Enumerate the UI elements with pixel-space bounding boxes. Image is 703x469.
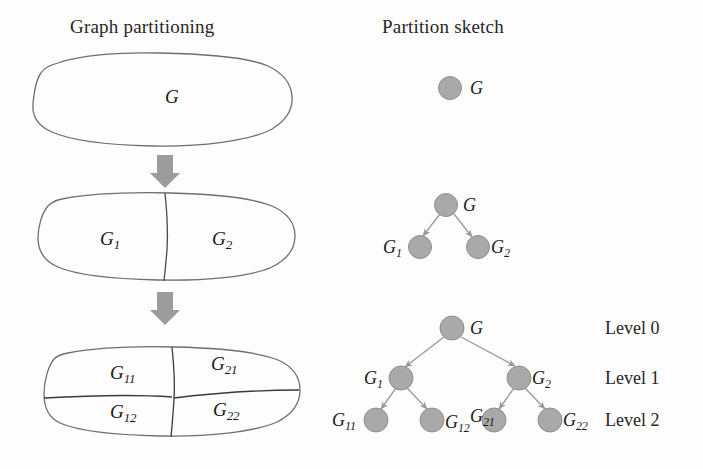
blob-label-G22: G22: [213, 399, 239, 424]
node-label-stage2-G22: G22: [563, 410, 588, 434]
blob-label-G12-base: G: [110, 401, 124, 422]
node-label-stage1-G1-base: G: [383, 237, 396, 257]
node-label-stage2-G22-sub: 22: [576, 419, 588, 433]
level-label-2: Level 2: [605, 410, 659, 431]
down-arrow-2: [150, 292, 180, 325]
level-label-1: Level 1: [605, 368, 659, 389]
blob-label-G12-sub: 12: [124, 410, 137, 425]
node-label-stage2-G2-sub: 2: [545, 377, 551, 391]
node-label-stage2-G1: G1: [364, 368, 383, 392]
blob-bisected: [38, 193, 295, 281]
blob-label-G: G: [165, 86, 179, 108]
node-label-stage2-G: G: [470, 318, 483, 339]
node-label-stage1-G2-sub: 2: [504, 246, 510, 260]
node-label-stage1-G1: G1: [383, 237, 402, 261]
node-label-stage2-G12-sub: 12: [458, 421, 470, 435]
blob-label-G11-sub: 11: [124, 371, 136, 386]
node-label-stage2-G12: G12: [445, 412, 470, 436]
blob-label-G1-base: G: [100, 228, 114, 249]
node-label-stage2-G11: G11: [332, 410, 356, 434]
sketch-tree-stage-0: [439, 77, 462, 100]
blob-label-G1-sub: 1: [114, 237, 120, 252]
down-arrow-1: [150, 155, 180, 188]
node-label-stage2-G21-sub: 21: [483, 415, 495, 429]
blob-label-G1: G1: [100, 228, 120, 253]
blob-label-G21-sub: 21: [225, 362, 238, 377]
node-label-stage1-G2-base: G: [491, 237, 504, 257]
node-label-stage2-G11-sub: 11: [345, 419, 356, 433]
node-label-stage2-G1-base: G: [364, 368, 377, 388]
blob-label-G21: G21: [211, 353, 237, 378]
blob-label-G22-base: G: [213, 399, 227, 420]
node-label-stage2-G2-base: G: [532, 368, 545, 388]
node-label-stage1-G-base: G: [463, 195, 476, 215]
node-label-stage2-G21-base: G: [470, 406, 483, 426]
node-label-stage1-G: G: [463, 195, 476, 216]
blob-label-G11: G11: [110, 362, 135, 387]
node-label-stage1-G1-sub: 1: [396, 246, 402, 260]
blob-label-G12: G12: [110, 401, 136, 426]
blob-label-G22-sub: 22: [227, 408, 240, 423]
node-label-stage0-G-base: G: [470, 78, 483, 98]
blob-label-G11-base: G: [110, 362, 124, 383]
level-label-0: Level 0: [605, 318, 659, 339]
node-label-stage2-G12-base: G: [445, 412, 458, 432]
blob-label-G2-base: G: [212, 228, 226, 249]
blob-whole-graph: [33, 53, 292, 146]
blob-quadrisected: [44, 347, 300, 437]
node-label-stage2-G21: G21: [470, 406, 495, 430]
figure-canvas: Graph partitioning Partition sketch: [0, 0, 703, 469]
blob-label-G-base: G: [165, 86, 179, 107]
node-label-stage2-G-base: G: [470, 318, 483, 338]
blob-label-G21-base: G: [211, 353, 225, 374]
node-label-stage2-G2: G2: [532, 368, 551, 392]
blob-label-G2: G2: [212, 228, 232, 253]
node-label-stage1-G2: G2: [491, 237, 510, 261]
node-label-stage2-G1-sub: 1: [377, 377, 383, 391]
node-label-stage2-G22-base: G: [563, 410, 576, 430]
node-label-stage0-G: G: [470, 78, 483, 99]
node-label-stage2-G11-base: G: [332, 410, 345, 430]
sketch-tree-stage-1: [409, 194, 490, 259]
blob-label-G2-sub: 2: [226, 237, 232, 252]
